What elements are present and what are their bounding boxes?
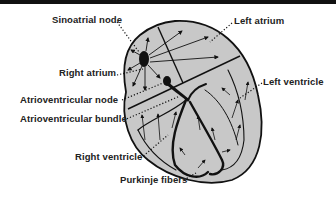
label-left-atrium: Left atrium (234, 15, 284, 26)
label-right-atrium: Right atrium (59, 67, 116, 78)
label-sinoatrial-node: Sinoatrial node (52, 14, 122, 25)
heart-outline (124, 21, 261, 183)
sinoatrial-node-shape (139, 51, 149, 67)
label-left-ventricle: Left ventricle (263, 76, 324, 87)
label-right-ventricle: Right ventricle (75, 151, 143, 162)
label-atrioventricular-bundle: Atrioventricular bundle (20, 113, 127, 124)
label-purkinje-fibers: Purkinje fibers (120, 174, 188, 185)
label-atrioventricular-node: Atrioventricular node (20, 94, 118, 105)
